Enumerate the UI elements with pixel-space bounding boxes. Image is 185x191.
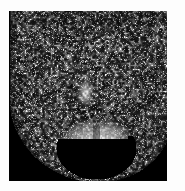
axial-grayscale-scan <box>9 11 167 181</box>
image-viewport: Grayscale medical scan <box>0 0 185 191</box>
scan-frame <box>9 11 167 181</box>
